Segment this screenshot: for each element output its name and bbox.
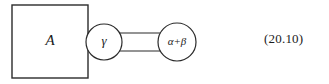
- equation-figure: A γ α+β (20.10): [0, 0, 329, 84]
- blob-a-label: A: [44, 32, 55, 48]
- vertex-alpha-beta-label: α+β: [168, 35, 187, 47]
- node-vertex-gamma: γ: [86, 24, 122, 60]
- node-vertex-alpha-beta: α+β: [158, 23, 196, 61]
- node-blob-a: A: [12, 5, 88, 78]
- equation-number: (20.10): [264, 31, 303, 47]
- double-line-connector: [118, 33, 163, 51]
- vertex-gamma-label: γ: [101, 33, 107, 48]
